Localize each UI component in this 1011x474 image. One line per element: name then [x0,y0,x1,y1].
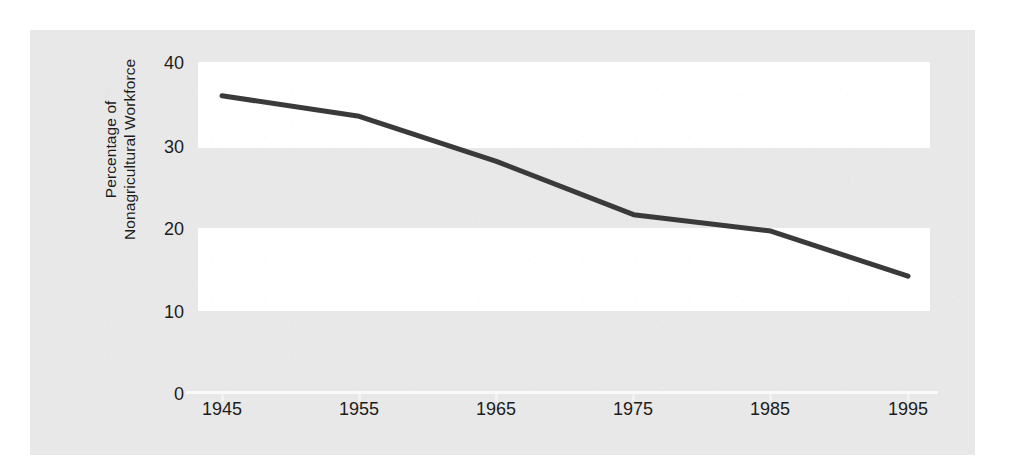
figure-container: Percentage of Nonagricultural Workforce … [0,0,1011,474]
data-series-line [222,96,908,276]
plot-svg [0,0,1011,474]
